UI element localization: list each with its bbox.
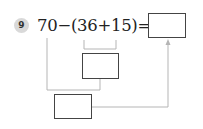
bracket-line <box>84 40 116 49</box>
arrow-head-icon <box>166 39 171 45</box>
step-result-box[interactable] <box>54 94 92 119</box>
answer-box[interactable] <box>148 13 186 38</box>
inner-sum-box[interactable] <box>82 53 119 79</box>
